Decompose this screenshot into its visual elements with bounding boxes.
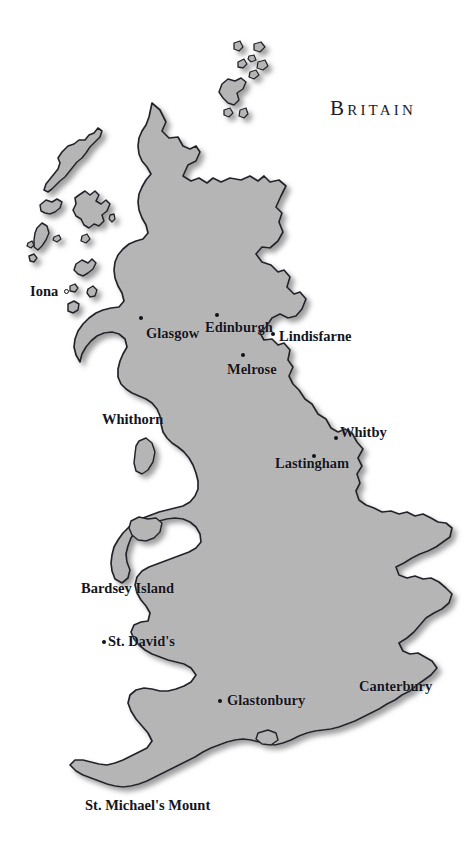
- island-lewis-harris: [44, 128, 102, 192]
- island-islay: [68, 301, 79, 313]
- place-label-canterbury: Canterbury: [359, 679, 432, 694]
- place-label-st-davids: St. David's: [108, 634, 175, 649]
- place-label-bardsey-island: Bardsey Island: [81, 581, 174, 596]
- island-anglesey: [129, 517, 162, 541]
- place-marker-iona: [64, 289, 69, 294]
- place-label-lindisfarne: Lindisfarne: [279, 329, 352, 344]
- place-marker-whitby: [334, 436, 338, 440]
- landmass-group: [27, 41, 452, 787]
- island-orkney-westray: [234, 41, 243, 51]
- island-south-uist: [34, 223, 49, 250]
- island-jura: [87, 286, 97, 297]
- place-label-glastonbury: Glastonbury: [227, 693, 305, 708]
- place-marker-melrose: [241, 353, 245, 357]
- island-orkney-hoy: [224, 108, 233, 117]
- place-marker-glastonbury: [218, 699, 222, 703]
- island-skye: [73, 191, 110, 228]
- island-orkney-shapinsay: [249, 70, 259, 79]
- place-marker-st-davids: [102, 640, 106, 644]
- island-orkney-rousay: [238, 59, 247, 68]
- island-rum: [81, 234, 90, 243]
- island-orkney-mainland: [219, 78, 246, 105]
- island-iona: [70, 284, 78, 292]
- place-label-whithorn: Whithorn: [102, 412, 163, 427]
- island-orkney-stronsay: [257, 60, 268, 70]
- island-orkney-sanday: [254, 42, 265, 52]
- island-north-uist: [40, 199, 62, 214]
- map-title: Britain: [330, 96, 416, 121]
- place-label-whitby: Whitby: [340, 425, 387, 440]
- place-label-glasgow: Glasgow: [146, 326, 199, 341]
- island-tiree: [27, 241, 34, 248]
- island-isle-of-man: [134, 438, 155, 474]
- island-mull: [74, 259, 96, 276]
- place-label-lastingham: Lastingham: [275, 456, 349, 471]
- britain-map-page: Britain Iona Glasgow Edinburgh Lindisfar…: [0, 0, 466, 841]
- place-marker-glasgow: [139, 316, 143, 320]
- place-label-melrose: Melrose: [227, 362, 277, 377]
- island-orkney-south-ronaldsay: [239, 108, 248, 118]
- island-orkney-eday: [248, 55, 256, 62]
- place-label-st-michaels-mount: St. Michael's Mount: [85, 798, 210, 813]
- place-marker-edinburgh: [215, 313, 219, 317]
- island-barra: [29, 254, 37, 262]
- island-coll: [53, 235, 61, 242]
- island-raasay: [109, 214, 115, 222]
- place-label-edinburgh: Edinburgh: [205, 320, 273, 335]
- place-label-iona: Iona: [30, 284, 58, 299]
- britain-map-graphic: [0, 0, 466, 841]
